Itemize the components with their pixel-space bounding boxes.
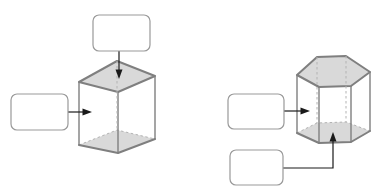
callout-cube-side xyxy=(11,94,68,130)
callout-boxes xyxy=(11,15,284,185)
cube-side-label-box[interactable] xyxy=(11,94,68,130)
prism-bottom-connector-elbow xyxy=(283,141,333,168)
cube-top-label-box[interactable] xyxy=(93,15,150,51)
callout-prism-bottom xyxy=(230,150,283,185)
callout-prism-side xyxy=(228,94,284,129)
diagram-canvas xyxy=(0,0,381,193)
prism-side-arrowhead-icon xyxy=(301,108,311,115)
prism-bottom-label-box[interactable] xyxy=(230,150,283,185)
solids-diagram xyxy=(0,0,381,193)
hexagonal-prism-shape xyxy=(297,56,370,143)
prism-top-face xyxy=(297,56,370,87)
prism-side-label-box[interactable] xyxy=(228,94,284,129)
callout-cube-top xyxy=(93,15,150,51)
cube-bottom-face xyxy=(79,130,155,153)
cube-shape xyxy=(79,61,155,153)
cube-side-arrowhead-icon xyxy=(83,109,93,116)
